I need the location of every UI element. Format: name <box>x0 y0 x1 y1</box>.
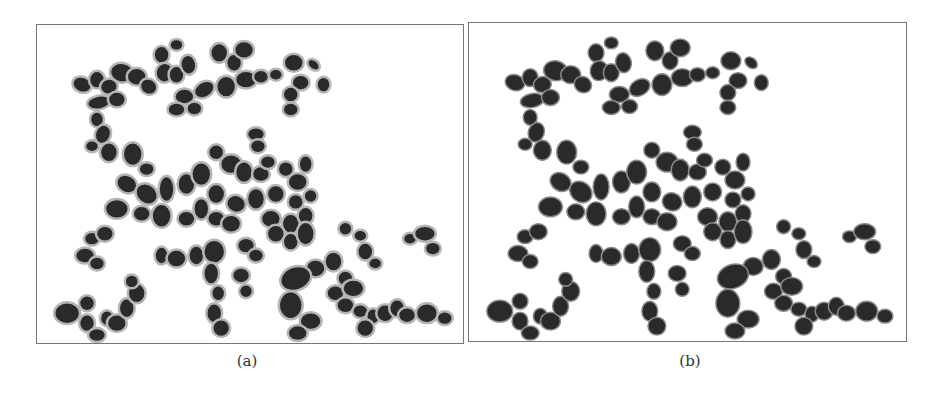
cell-segmentation-ellipses <box>469 23 906 341</box>
panel-b-image <box>468 22 907 342</box>
cell-segmentation-contours <box>37 25 463 343</box>
panel-a-image <box>36 24 464 344</box>
caption-a: (a) <box>237 352 258 370</box>
caption-b: (b) <box>679 352 700 370</box>
